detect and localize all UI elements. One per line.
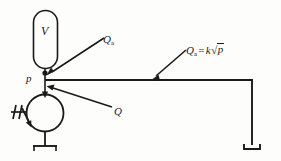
orifice-flow-arrowhead [151,75,161,81]
radical-argument: p [217,43,224,55]
vessel-body [34,11,58,69]
figure-canvas: V p Qa Q Qa=k√p [0,0,281,161]
pump-body [27,95,64,132]
vessel-flow-label: Qa [103,34,114,45]
square-root-group: √p [211,44,224,56]
pump-flow-label: Q [114,106,122,117]
vessel-flow-leader [52,38,104,72]
vessel-volume-label: V [41,25,48,37]
pressure-node-label: p [26,73,32,84]
orifice-flow-subscript: a [194,50,197,57]
vessel-flow-symbol: Q [103,33,111,45]
orifice-flow-leader [156,50,186,76]
orifice-flow-equation: Qa=k√p [186,44,224,56]
vessel-flow-subscript: a [111,39,114,46]
pump-flow-arrowhead [47,84,55,90]
equals-sign: = [197,44,206,56]
orifice-flow-symbol: Q [186,44,194,56]
